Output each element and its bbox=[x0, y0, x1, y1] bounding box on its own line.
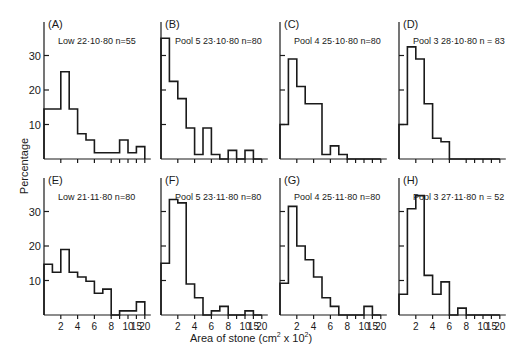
x-tick-label: 4 bbox=[75, 321, 81, 332]
panel-label: (H) bbox=[403, 174, 418, 186]
panel-d: (D)Pool 3 28·10·80 n = 83 bbox=[399, 18, 506, 163]
panel-f: 2468101520(F)Pool 5 23·11·80 n=80 bbox=[161, 174, 268, 332]
histogram-steps bbox=[399, 47, 500, 159]
y-tick-label: 10 bbox=[29, 119, 41, 131]
panel-header: Pool 4 25·11·80 n=80 bbox=[294, 192, 380, 202]
panel-label: (G) bbox=[284, 174, 300, 186]
panel-header: Low 22·10·80 n=55 bbox=[58, 36, 136, 46]
y-tick-label: 10 bbox=[29, 275, 41, 287]
x-tick-label: 6 bbox=[92, 321, 98, 332]
x-tick-label: 4 bbox=[430, 321, 436, 332]
x-tick-label: 2 bbox=[413, 321, 419, 332]
x-tick-label: 20 bbox=[139, 321, 151, 332]
panel-c: (C)Pool 4 25·10·80 n=80 bbox=[280, 18, 387, 163]
panel-b: (B)Pool 5 23·10·80 n=80 bbox=[161, 18, 268, 163]
panel-label: (C) bbox=[284, 18, 299, 30]
x-axis-label: Area of stone (cm2 x 102) bbox=[190, 331, 312, 344]
x-tick-label: 8 bbox=[344, 321, 350, 332]
histogram-steps bbox=[44, 249, 145, 315]
x-tick-label: 8 bbox=[463, 321, 469, 332]
y-tick-label: 30 bbox=[29, 206, 41, 218]
panel-header: Low 21·11·80 n=80 bbox=[58, 192, 135, 202]
panel-a: 102030(A)Low 22·10·80 n=55 bbox=[29, 18, 151, 163]
histogram-steps bbox=[44, 72, 145, 159]
histogram-steps bbox=[280, 59, 381, 159]
panel-label: (B) bbox=[165, 18, 180, 30]
panel-label: (A) bbox=[48, 18, 63, 30]
panel-h: 2468101520(H)Pool 3 27·11·80 n = 52 bbox=[399, 174, 506, 332]
x-tick-label: 2 bbox=[58, 321, 64, 332]
y-tick-label: 20 bbox=[29, 240, 41, 252]
histogram-grid: 102030(A)Low 22·10·80 n=55(B)Pool 5 23·1… bbox=[0, 0, 526, 358]
y-tick-label: 20 bbox=[29, 84, 41, 96]
x-tick-label: 6 bbox=[328, 321, 334, 332]
y-axis-label: Percentage bbox=[18, 136, 30, 196]
x-tick-label: 2 bbox=[175, 321, 181, 332]
histogram-steps bbox=[399, 196, 500, 315]
panel-header: Pool 4 25·10·80 n=80 bbox=[294, 36, 381, 46]
panel-label: (D) bbox=[403, 18, 418, 30]
histogram-figure: 102030(A)Low 22·10·80 n=55(B)Pool 5 23·1… bbox=[0, 0, 526, 358]
panel-label: (F) bbox=[165, 174, 179, 186]
x-tick-label: 8 bbox=[108, 321, 114, 332]
histogram-steps bbox=[161, 199, 262, 315]
histogram-steps bbox=[161, 38, 262, 159]
panel-header: Pool 5 23·10·80 n=80 bbox=[175, 36, 262, 46]
x-tick-label: 6 bbox=[447, 321, 453, 332]
panel-e: 1020302468101520(E)Low 21·11·80 n=80 bbox=[29, 174, 151, 332]
x-tick-label: 20 bbox=[494, 321, 506, 332]
panel-label: (E) bbox=[48, 174, 63, 186]
x-axis-label-main: Area of stone bbox=[190, 332, 259, 344]
panel-header: Pool 3 28·10·80 n = 83 bbox=[413, 36, 505, 46]
x-tick-label: 20 bbox=[375, 321, 387, 332]
y-tick-label: 30 bbox=[29, 50, 41, 62]
panel-g: 2468101520(G)Pool 4 25·11·80 n=80 bbox=[280, 174, 387, 332]
panel-header: Pool 5 23·11·80 n=80 bbox=[175, 192, 261, 202]
histogram-steps bbox=[280, 206, 381, 315]
panel-header: Pool 3 27·11·80 n = 52 bbox=[413, 192, 504, 202]
